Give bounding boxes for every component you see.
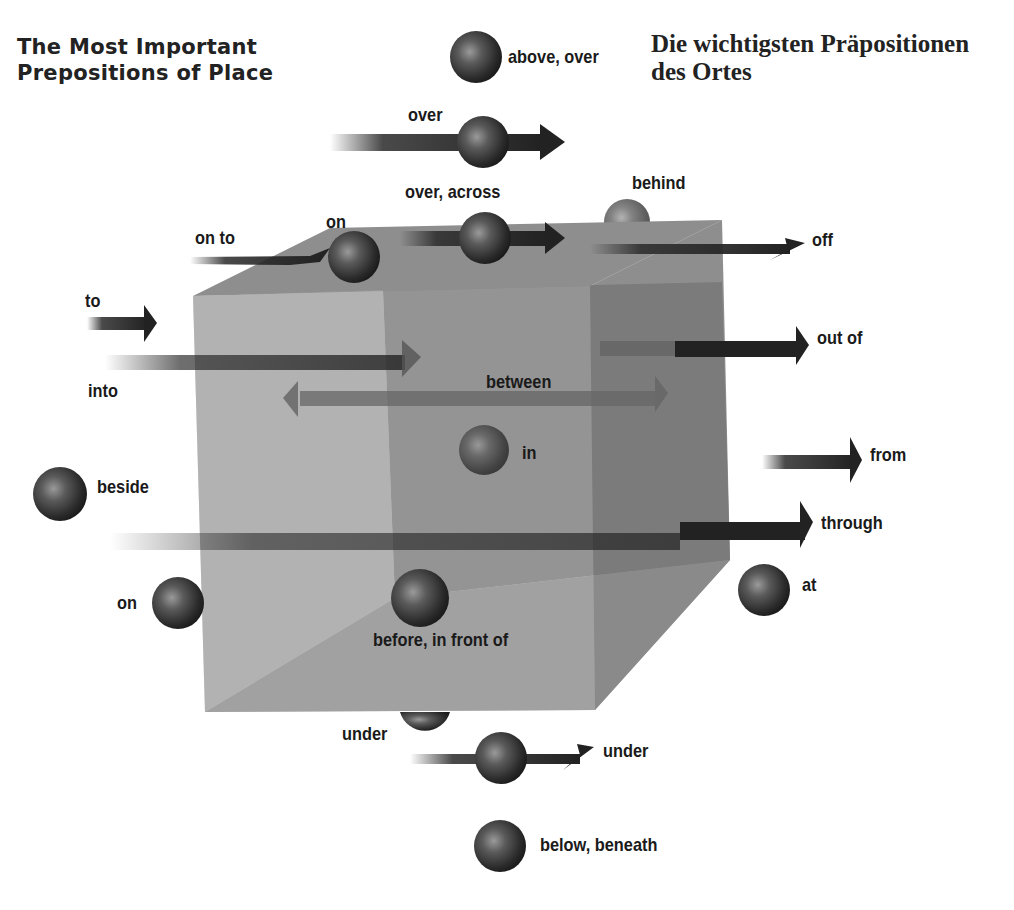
sphere-over <box>457 116 509 168</box>
label-on-side: on <box>117 592 137 614</box>
sphere-on-side <box>152 577 204 629</box>
label-over-across: over, across <box>405 181 500 203</box>
label-below-beneath: below, beneath <box>540 834 657 856</box>
sphere-below <box>474 820 526 872</box>
arrow-over <box>330 124 565 160</box>
label-out-of: out of <box>817 327 862 349</box>
sphere-before <box>391 569 449 627</box>
label-from: from <box>870 444 906 466</box>
label-on-top: on <box>326 211 346 233</box>
sphere-above-over <box>450 31 502 83</box>
label-under-sphere: under <box>342 723 387 745</box>
arrow-from <box>762 437 862 483</box>
sphere-beside <box>33 467 87 521</box>
label-in: in <box>522 442 537 464</box>
label-on-to: on to <box>195 227 235 249</box>
label-through: through <box>821 512 883 534</box>
label-at: at <box>802 574 817 596</box>
label-off: off <box>812 229 833 251</box>
label-under-arrow: under <box>603 740 648 762</box>
sphere-under-arrow <box>475 732 527 784</box>
sphere-under <box>400 712 450 731</box>
sphere-at <box>738 564 790 616</box>
sphere-over-across <box>459 212 511 264</box>
sphere-on-top <box>328 231 380 283</box>
label-behind: behind <box>632 172 686 194</box>
sphere-in <box>459 425 509 475</box>
preposition-diagram <box>0 0 1014 910</box>
label-to: to <box>85 290 100 312</box>
label-before-in-front-of: before, in front of <box>373 629 508 651</box>
label-between: between <box>486 371 551 393</box>
label-beside: beside <box>97 476 149 498</box>
label-over: over <box>408 104 443 126</box>
label-into: into <box>88 380 118 402</box>
label-above-over: above, over <box>508 46 599 68</box>
